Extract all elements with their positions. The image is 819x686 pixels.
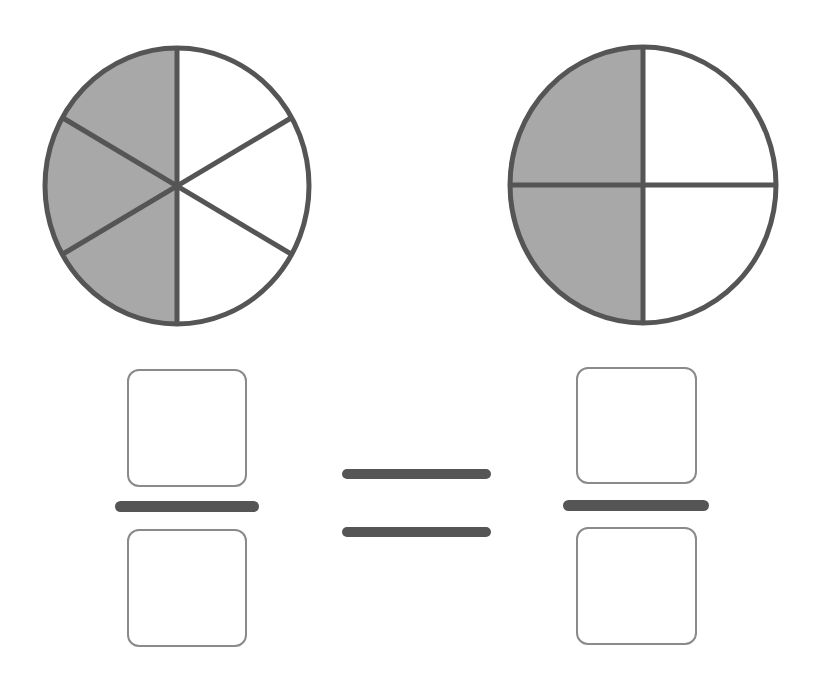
left-denominator-input[interactable] [127, 529, 247, 647]
right-numerator-input[interactable] [576, 367, 697, 484]
left-fraction-bar [115, 501, 259, 512]
equals-sign-bottom [342, 527, 491, 537]
right-denominator-input[interactable] [576, 527, 697, 645]
equals-sign-top [342, 469, 491, 479]
left-circle-sixths [45, 48, 309, 324]
left-numerator-input[interactable] [127, 369, 247, 487]
right-fraction-bar [563, 500, 709, 511]
right-circle-quarters [510, 47, 776, 323]
